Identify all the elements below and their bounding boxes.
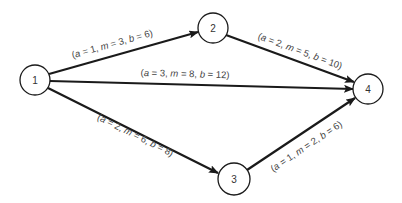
node-label: 4: [365, 84, 371, 95]
node-4: 4: [353, 74, 383, 104]
edge-label-1-3: (a = 2, m = 6, b = 8): [96, 111, 176, 158]
nodes-layer: 1234: [20, 13, 383, 195]
node-2: 2: [198, 13, 228, 43]
node-3: 3: [218, 163, 250, 195]
edge-3-to-4: (a = 1, m = 2, b = 6): [247, 98, 355, 174]
node-label: 1: [32, 75, 38, 86]
node-1: 1: [20, 65, 50, 95]
edge-label-3-4: (a = 1, m = 2, b = 6): [268, 118, 344, 174]
edge-1-to-3: (a = 2, m = 6, b = 8): [48, 88, 218, 173]
arrow-icon: [50, 81, 353, 89]
node-label: 2: [210, 23, 216, 34]
node-label: 3: [231, 174, 237, 185]
edge-label-1-4: (a = 3, m = 8, b = 12): [140, 67, 229, 80]
edge-2-to-4: (a = 2, m = 5, b = 10): [226, 30, 354, 82]
arrow-icon: [247, 98, 355, 170]
edge-1-to-4: (a = 3, m = 8, b = 12): [50, 67, 353, 89]
activity-network-diagram: (a = 1, m = 3, b = 6) (a = 3, m = 8, b =…: [0, 0, 402, 203]
